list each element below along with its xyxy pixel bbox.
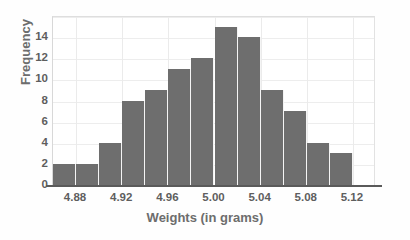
x-axis-line [46,185,382,187]
y-tick-label: 6 [26,116,48,128]
plot-area [52,16,375,185]
x-axis-tick-labels: 4.884.924.965.005.045.085.12 [0,190,410,206]
x-axis-title: Weights (in grams) [0,210,410,225]
y-tick-label: 14 [26,31,48,43]
histogram-bar [99,143,122,185]
histogram-bar [284,111,307,185]
histogram-bar [261,90,284,185]
histogram-bar [122,101,145,186]
histogram-chart: Frequency 02468101214 4.884.924.965.005.… [0,0,410,240]
histogram-bar [76,164,99,185]
y-tick-label: 8 [26,95,48,107]
y-tick-label: 4 [26,137,48,149]
histogram-bar [307,143,330,185]
y-tick-label: 12 [26,53,48,65]
histogram-bar [168,69,191,185]
x-tick-label: 5.08 [286,190,326,204]
bar-series [53,17,374,185]
x-tick-label: 4.92 [101,190,141,204]
histogram-bar [238,37,261,185]
histogram-bar [145,90,168,185]
x-tick-label: 5.00 [194,190,234,204]
x-tick-label: 5.04 [240,190,280,204]
y-tick-label: 2 [26,158,48,170]
x-tick-label: 4.96 [147,190,187,204]
histogram-bar [53,164,76,185]
histogram-bar [330,153,353,185]
y-tick-label: 10 [26,74,48,86]
x-tick-label: 5.12 [332,190,372,204]
x-tick-label: 4.88 [55,190,95,204]
histogram-bar [215,27,238,185]
histogram-bar [191,58,214,185]
